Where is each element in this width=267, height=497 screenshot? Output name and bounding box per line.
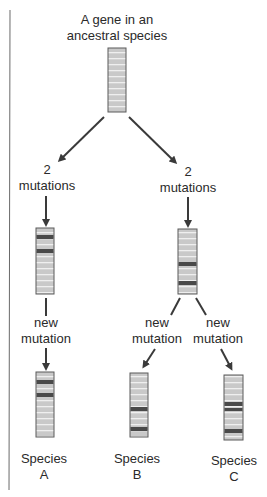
left-branch-count: 2 — [43, 162, 50, 177]
mutation-band — [37, 235, 54, 239]
gene-evolution-diagram: A gene in an ancestral species 2 mutatio… — [0, 0, 267, 497]
species-b-label-2: B — [133, 467, 142, 482]
left-border-line — [9, 10, 10, 490]
species-a-label-1: Species — [21, 451, 68, 466]
mutation-band — [225, 408, 243, 411]
gene-species-a — [36, 372, 54, 437]
event-c-line-2: mutation — [193, 331, 243, 346]
mutation-band — [37, 249, 54, 253]
event-b-line-2: mutation — [132, 331, 182, 346]
connector-b — [171, 298, 180, 315]
mutation-band — [225, 429, 243, 433]
mutation-band — [179, 281, 197, 285]
gene-species-b — [130, 373, 148, 437]
right-branch-count: 2 — [184, 164, 191, 179]
left-branch-label: mutations — [19, 178, 76, 193]
mutation-band — [37, 380, 54, 384]
arrow-to-species-c — [221, 349, 231, 368]
right-branch-label: mutations — [160, 180, 217, 195]
species-c-label-1: Species — [211, 453, 258, 468]
gene-lineage-a-intermediate — [36, 228, 54, 294]
connector-c — [196, 298, 206, 315]
arrow-to-right-lineage — [129, 117, 175, 162]
gene-ancestral — [108, 48, 126, 112]
event-a-line-1: new — [34, 315, 58, 330]
species-a-label-2: A — [40, 467, 49, 482]
arrow-to-left-lineage — [60, 117, 104, 160]
event-b-line-1: new — [145, 315, 169, 330]
title-line-1: A gene in an — [81, 12, 153, 27]
arrow-to-species-b — [144, 349, 155, 366]
mutation-band — [37, 393, 54, 397]
species-c-label-2: C — [229, 469, 238, 484]
species-b-label-1: Species — [114, 451, 161, 466]
mutation-band — [225, 402, 243, 406]
mutation-band — [179, 262, 197, 266]
event-a-line-2: mutation — [21, 331, 71, 346]
gene-species-c — [224, 375, 243, 440]
mutation-band — [131, 407, 148, 411]
title-line-2: ancestral species — [67, 28, 168, 43]
event-c-line-1: new — [206, 315, 230, 330]
mutation-band — [131, 427, 148, 431]
gene-lineage-bc-intermediate — [178, 229, 197, 294]
